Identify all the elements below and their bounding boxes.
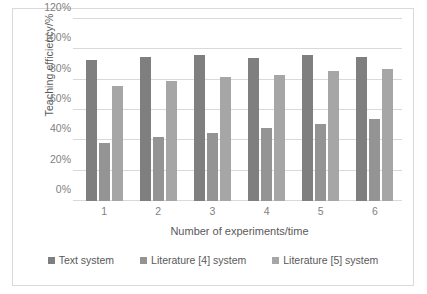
legend-swatch-icon (140, 257, 147, 264)
y-tick-label: 80% (50, 62, 71, 74)
bar (261, 128, 272, 201)
y-tick-label: 100% (44, 31, 71, 43)
bar (112, 86, 123, 201)
y-tick-label: 120% (44, 1, 71, 13)
x-tick-label: 4 (240, 205, 294, 217)
bar (99, 143, 110, 201)
bar (166, 81, 177, 201)
bar (302, 55, 313, 201)
legend-label: Literature [5] system (283, 254, 378, 266)
x-tick-labels: 123456 (77, 205, 402, 217)
y-tick-label: 40% (50, 122, 71, 134)
bar (248, 58, 259, 201)
bar (369, 119, 380, 201)
bar (194, 55, 205, 201)
bar (274, 75, 285, 201)
x-tick-label: 2 (131, 205, 185, 217)
chart-legend: Text systemLiterature [4] systemLiteratu… (13, 254, 413, 266)
bar (328, 71, 339, 201)
bar-groups (77, 19, 402, 201)
bar (356, 57, 367, 201)
bar (86, 60, 97, 201)
bar-group (240, 19, 294, 201)
chart-frame: Teaching efficiency/% 0%20%40%60%80%100%… (12, 8, 414, 286)
y-tick-label: 0% (56, 183, 71, 195)
y-tick-label: 60% (50, 92, 71, 104)
legend-swatch-icon (272, 257, 279, 264)
y-tick-label: 20% (50, 153, 71, 165)
bar-group (77, 19, 131, 201)
chart-screenshot: Teaching efficiency/% 0%20%40%60%80%100%… (0, 0, 427, 294)
bar-group (294, 19, 348, 201)
legend-item[interactable]: Literature [5] system (272, 254, 378, 266)
bar (140, 57, 151, 201)
bar (153, 137, 164, 201)
legend-label: Text system (59, 254, 114, 266)
legend-label: Literature [4] system (151, 254, 246, 266)
bar-group (348, 19, 402, 201)
bar-group (185, 19, 239, 201)
x-tick-label: 1 (77, 205, 131, 217)
x-axis-title: Number of experiments/time (77, 225, 402, 237)
legend-swatch-icon (48, 257, 55, 264)
bar (207, 133, 218, 201)
legend-item[interactable]: Text system (48, 254, 114, 266)
legend-item[interactable]: Literature [4] system (140, 254, 246, 266)
x-tick-label: 6 (348, 205, 402, 217)
bar (315, 124, 326, 201)
bar (220, 77, 231, 201)
plot-area: 0%20%40%60%80%100%120% (77, 19, 402, 201)
x-tick-label: 3 (185, 205, 239, 217)
bar (382, 69, 393, 201)
x-tick-label: 5 (294, 205, 348, 217)
bar-group (131, 19, 185, 201)
